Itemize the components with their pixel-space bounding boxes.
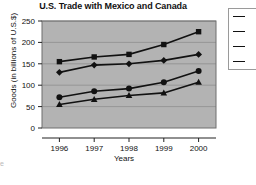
x-axis-label: Years xyxy=(34,154,214,163)
y-axis-tick-label: 0 xyxy=(31,124,36,133)
data-point-square xyxy=(126,52,131,57)
data-point-square xyxy=(196,29,201,34)
data-point-square xyxy=(57,59,62,64)
data-point-circle xyxy=(91,88,97,94)
y-axis-tick-label: 100 xyxy=(22,81,36,90)
legend-swatch-circle xyxy=(233,46,245,47)
x-axis-tick-label: 1998 xyxy=(120,144,138,152)
y-axis-tick-label: 200 xyxy=(22,38,36,47)
x-axis-tick-label: 1999 xyxy=(155,144,173,152)
x-axis-tick-label: 1996 xyxy=(51,144,69,152)
y-axis-tick-label: 250 xyxy=(22,17,36,26)
data-point-circle xyxy=(56,94,62,100)
chart-figure: U.S. Trade with Mexico and Canada Goods … xyxy=(0,0,256,185)
legend-swatch-diamond xyxy=(233,31,245,32)
data-point-circle xyxy=(126,86,132,92)
x-axis-tick-label: 2000 xyxy=(190,144,208,152)
x-axis-tick-label: 1997 xyxy=(85,144,103,152)
data-point-square xyxy=(92,54,97,59)
legend-item[interactable] xyxy=(229,24,256,39)
left-edge-text-fragment: e xyxy=(0,160,4,167)
y-axis-tick-label: 50 xyxy=(26,103,35,112)
data-point-circle xyxy=(161,79,167,85)
data-point-circle xyxy=(196,68,202,74)
legend-item[interactable] xyxy=(229,54,256,69)
legend-swatch-triangle xyxy=(233,61,245,62)
data-point-square xyxy=(161,42,166,47)
chart-title: U.S. Trade with Mexico and Canada xyxy=(0,1,226,11)
legend-swatch-square xyxy=(233,16,245,17)
legend xyxy=(228,8,256,70)
legend-item[interactable] xyxy=(229,9,256,24)
plot-area: 05010015020025019961997199819992000 xyxy=(0,12,228,152)
y-axis-tick-label: 150 xyxy=(22,60,36,69)
legend-item[interactable] xyxy=(229,39,256,54)
